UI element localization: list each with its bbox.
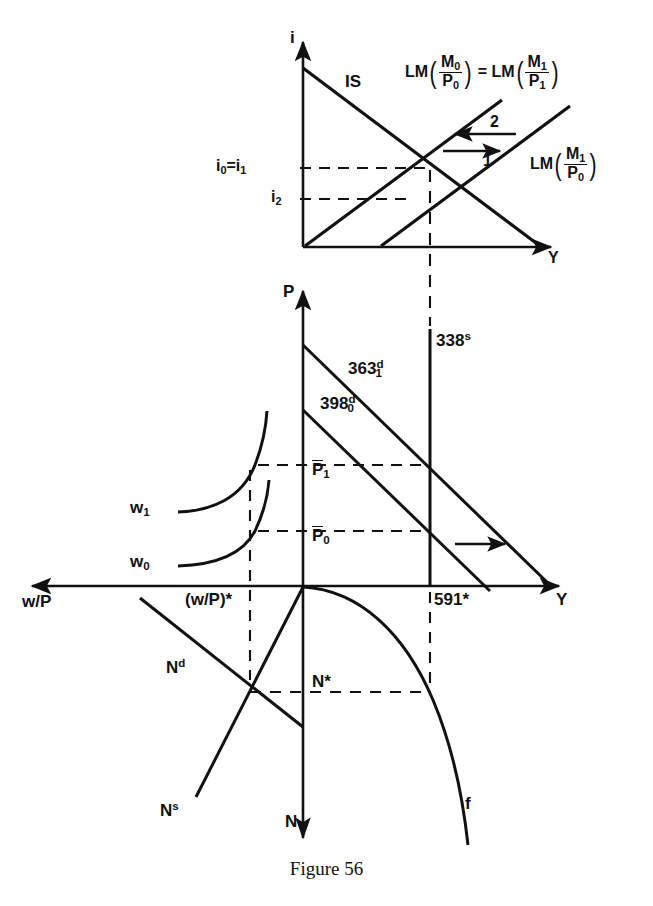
p0-level-label: P0	[312, 526, 330, 546]
y-star-label: 591*	[434, 590, 469, 610]
shift-arrow-2-label: 2	[490, 113, 499, 131]
nd-curve-label: Nd	[166, 657, 185, 678]
lm0-curve-label: LM(M0P0) = LM(M1P1)	[405, 54, 560, 92]
i2-label: i2	[271, 188, 282, 207]
figure-caption: Figure 56	[0, 858, 653, 880]
f-curve	[303, 587, 468, 845]
lm0-curve	[305, 100, 502, 246]
nd-curve	[140, 598, 303, 727]
y-axis-top-label: Y	[548, 249, 559, 267]
wp-axis-label: w/P	[22, 592, 51, 612]
is-curve-label: IS	[345, 72, 361, 92]
i0-i1-label: i0=i1	[216, 157, 246, 176]
f-curve-label: f	[465, 794, 471, 814]
w1-curve	[178, 411, 267, 512]
n-axis-label: N	[285, 812, 297, 832]
p-axis-label: P	[283, 282, 294, 302]
i-axis-label: i	[290, 28, 295, 48]
p1-level-label: P1	[312, 460, 330, 480]
yd0-curve-label: 398d0	[320, 393, 354, 414]
y-axis-bottom-label: Y	[556, 590, 567, 610]
figure-drawing	[0, 0, 653, 906]
ys-curve-label: 338s	[436, 330, 471, 351]
yd1-curve-label: 363d1	[348, 358, 382, 379]
ns-curve-label: Ns	[160, 800, 179, 821]
w0-curve-label: w0	[130, 552, 150, 572]
four-quadrant-panel	[32, 291, 559, 845]
macroeconomic-four-quadrant-figure: i IS LM(M0P0) = LM(M1P1) LM(M1P0) 1 2 i0…	[0, 0, 653, 906]
lm1-curve-label: LM(M1P0)	[530, 146, 598, 184]
shift-arrow-1-label: 1	[483, 152, 492, 170]
n-star-label: N*	[312, 672, 331, 692]
wp-star-label: (w/P)*	[185, 590, 232, 610]
w0-curve	[178, 480, 269, 566]
w1-curve-label: w1	[130, 498, 150, 518]
